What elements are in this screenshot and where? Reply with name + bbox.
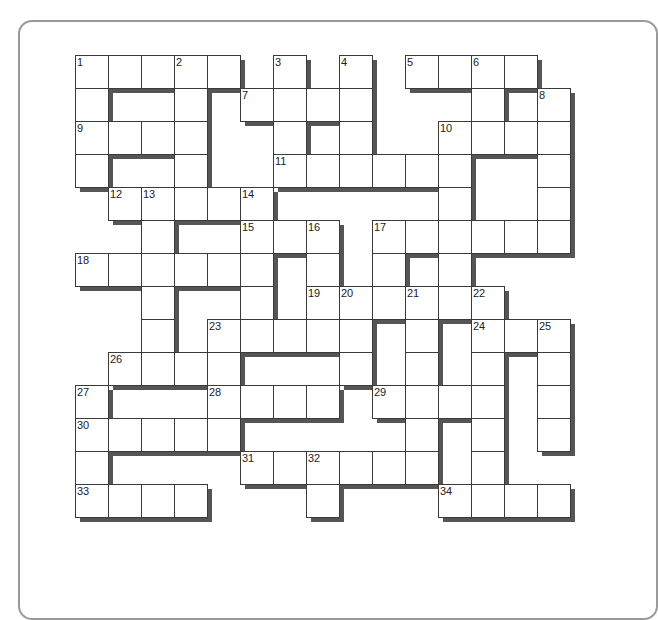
- grid-cell[interactable]: 19: [306, 286, 340, 320]
- grid-cell[interactable]: [504, 121, 538, 155]
- grid-cell[interactable]: [174, 121, 208, 155]
- grid-cell[interactable]: [504, 484, 538, 518]
- grid-cell[interactable]: [240, 286, 274, 320]
- grid-cell[interactable]: [174, 253, 208, 287]
- grid-cell[interactable]: [75, 88, 109, 122]
- grid-cell[interactable]: [471, 121, 505, 155]
- grid-cell[interactable]: [75, 451, 109, 485]
- grid-cell[interactable]: 24: [471, 319, 505, 353]
- grid-cell[interactable]: [405, 418, 439, 452]
- grid-cell[interactable]: [438, 154, 472, 188]
- grid-cell[interactable]: [174, 187, 208, 221]
- grid-cell[interactable]: [504, 55, 538, 89]
- grid-cell[interactable]: 1: [75, 55, 109, 89]
- grid-cell[interactable]: [141, 418, 175, 452]
- grid-cell[interactable]: [108, 418, 142, 452]
- grid-cell[interactable]: [141, 220, 175, 254]
- grid-cell[interactable]: [240, 319, 274, 353]
- grid-cell[interactable]: [339, 88, 373, 122]
- grid-cell[interactable]: [372, 451, 406, 485]
- grid-cell[interactable]: 23: [207, 319, 241, 353]
- grid-cell[interactable]: 12: [108, 187, 142, 221]
- grid-cell[interactable]: [537, 385, 571, 419]
- grid-cell[interactable]: 4: [339, 55, 373, 89]
- grid-cell[interactable]: [438, 385, 472, 419]
- grid-cell[interactable]: 25: [537, 319, 571, 353]
- grid-cell[interactable]: [471, 385, 505, 419]
- grid-cell[interactable]: [273, 451, 307, 485]
- grid-cell[interactable]: 31: [240, 451, 274, 485]
- grid-cell[interactable]: [471, 451, 505, 485]
- grid-cell[interactable]: [405, 220, 439, 254]
- grid-cell[interactable]: [537, 154, 571, 188]
- grid-cell[interactable]: 18: [75, 253, 109, 287]
- grid-cell[interactable]: 5: [405, 55, 439, 89]
- grid-cell[interactable]: 14: [240, 187, 274, 221]
- grid-cell[interactable]: 27: [75, 385, 109, 419]
- grid-cell[interactable]: 6: [471, 55, 505, 89]
- grid-cell[interactable]: [339, 319, 373, 353]
- grid-cell[interactable]: [174, 484, 208, 518]
- grid-cell[interactable]: 2: [174, 55, 208, 89]
- grid-cell[interactable]: [174, 154, 208, 188]
- grid-cell[interactable]: [306, 484, 340, 518]
- grid-cell[interactable]: [207, 187, 241, 221]
- grid-cell[interactable]: 10: [438, 121, 472, 155]
- grid-cell[interactable]: [240, 385, 274, 419]
- grid-cell[interactable]: [273, 319, 307, 353]
- grid-cell[interactable]: [405, 352, 439, 386]
- grid-cell[interactable]: [306, 385, 340, 419]
- grid-cell[interactable]: [471, 418, 505, 452]
- grid-cell[interactable]: [207, 253, 241, 287]
- grid-cell[interactable]: [273, 220, 307, 254]
- grid-cell[interactable]: [504, 220, 538, 254]
- grid-cell[interactable]: [339, 451, 373, 485]
- grid-cell[interactable]: [75, 154, 109, 188]
- grid-cell[interactable]: [372, 154, 406, 188]
- grid-cell[interactable]: 13: [141, 187, 175, 221]
- grid-cell[interactable]: 16: [306, 220, 340, 254]
- grid-cell[interactable]: [141, 121, 175, 155]
- grid-cell[interactable]: [174, 88, 208, 122]
- grid-cell[interactable]: 17: [372, 220, 406, 254]
- grid-cell[interactable]: [372, 286, 406, 320]
- grid-cell[interactable]: 30: [75, 418, 109, 452]
- grid-cell[interactable]: [339, 154, 373, 188]
- grid-cell[interactable]: [438, 286, 472, 320]
- grid-cell[interactable]: [471, 220, 505, 254]
- grid-cell[interactable]: 32: [306, 451, 340, 485]
- grid-cell[interactable]: [273, 385, 307, 419]
- grid-cell[interactable]: [174, 418, 208, 452]
- grid-cell[interactable]: 3: [273, 55, 307, 89]
- grid-cell[interactable]: [240, 253, 274, 287]
- grid-cell[interactable]: [471, 88, 505, 122]
- grid-cell[interactable]: [537, 220, 571, 254]
- grid-cell[interactable]: [108, 55, 142, 89]
- grid-cell[interactable]: 20: [339, 286, 373, 320]
- grid-cell[interactable]: 29: [372, 385, 406, 419]
- grid-cell[interactable]: [273, 121, 307, 155]
- grid-cell[interactable]: [537, 418, 571, 452]
- grid-cell[interactable]: [537, 484, 571, 518]
- grid-cell[interactable]: [207, 55, 241, 89]
- grid-cell[interactable]: [405, 451, 439, 485]
- grid-cell[interactable]: [306, 253, 340, 287]
- grid-cell[interactable]: [372, 253, 406, 287]
- grid-cell[interactable]: [141, 286, 175, 320]
- grid-cell[interactable]: [174, 352, 208, 386]
- grid-cell[interactable]: [273, 88, 307, 122]
- grid-cell[interactable]: 7: [240, 88, 274, 122]
- grid-cell[interactable]: [141, 253, 175, 287]
- grid-cell[interactable]: [537, 187, 571, 221]
- grid-cell[interactable]: [339, 121, 373, 155]
- grid-cell[interactable]: [141, 484, 175, 518]
- grid-cell[interactable]: [108, 121, 142, 155]
- grid-cell[interactable]: [141, 319, 175, 353]
- grid-cell[interactable]: [438, 220, 472, 254]
- grid-cell[interactable]: [306, 88, 340, 122]
- grid-cell[interactable]: 22: [471, 286, 505, 320]
- grid-cell[interactable]: [438, 187, 472, 221]
- grid-cell[interactable]: [471, 352, 505, 386]
- grid-cell[interactable]: 9: [75, 121, 109, 155]
- grid-cell[interactable]: [438, 55, 472, 89]
